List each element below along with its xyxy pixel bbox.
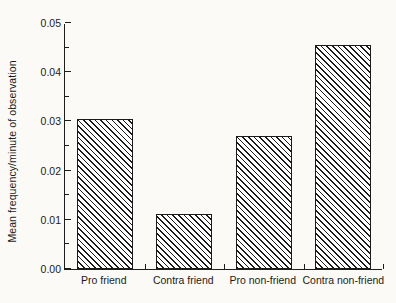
y-tick-label: 0.04 xyxy=(41,66,61,78)
x-tick xyxy=(224,264,225,269)
y-tick-minor xyxy=(65,47,69,48)
bar xyxy=(236,136,292,269)
bar xyxy=(77,119,133,269)
y-axis-title: Mean frequency/minute of observation xyxy=(0,0,24,303)
y-tick-major: 0.03 xyxy=(65,120,71,121)
bar xyxy=(156,214,212,269)
y-tick-minor xyxy=(65,243,69,244)
y-tick-major: 0.05 xyxy=(65,22,71,23)
x-category-label: Contra friend xyxy=(144,274,224,286)
x-tick xyxy=(145,264,146,269)
y-tick-major: 0.01 xyxy=(65,219,71,220)
x-tick xyxy=(304,264,305,269)
y-tick-label: 0.02 xyxy=(41,165,61,177)
y-tick-label: 0.00 xyxy=(41,263,61,275)
y-tick-minor xyxy=(65,96,69,97)
bar xyxy=(315,45,371,269)
y-tick-major: 0.02 xyxy=(65,170,71,171)
bar-chart-figure: Mean frequency/minute of observation 0.0… xyxy=(0,0,396,303)
y-tick-label: 0.03 xyxy=(41,115,61,127)
y-tick-major: 0.04 xyxy=(65,71,71,72)
plot-area: 0.000.010.020.030.040.05 xyxy=(64,24,382,270)
x-category-label: Contra non-friend xyxy=(303,274,383,286)
y-tick-minor xyxy=(65,145,69,146)
y-tick-major: 0.00 xyxy=(65,268,71,269)
x-category-label: Pro friend xyxy=(64,274,144,286)
x-tick xyxy=(383,264,384,269)
y-tick-label: 0.05 xyxy=(41,17,61,29)
x-category-label: Pro non-friend xyxy=(223,274,303,286)
y-tick-label: 0.01 xyxy=(41,214,61,226)
y-tick-minor xyxy=(65,194,69,195)
